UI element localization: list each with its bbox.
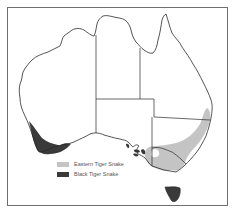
eastern-swatch (57, 162, 69, 167)
australia-map (0, 0, 232, 215)
legend-item-black: Black Tiger Snake (57, 169, 124, 179)
black-swatch (57, 172, 69, 177)
legend-item-eastern: Eastern Tiger Snake (57, 159, 124, 169)
legend-label-eastern: Eastern Tiger Snake (74, 159, 124, 169)
map-legend: Eastern Tiger Snake Black Tiger Snake (57, 159, 124, 179)
legend-label-black: Black Tiger Snake (74, 169, 118, 179)
eastern-tiger-snake-range (145, 108, 210, 171)
black-tiger-snake-range-sw (29, 121, 70, 154)
